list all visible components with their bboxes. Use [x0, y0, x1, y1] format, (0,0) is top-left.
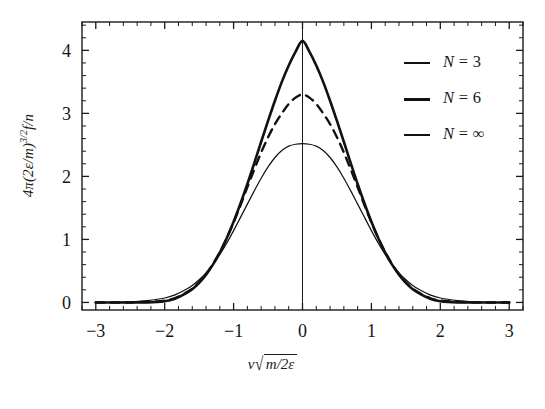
- legend-symbol: N: [443, 124, 454, 143]
- x-tick-label: −2: [155, 321, 174, 341]
- x-tick-label: 0: [298, 321, 307, 341]
- y-axis-label: 4π(2ε/m)3/2f/n: [6, 0, 50, 310]
- legend-line-sample: [404, 62, 430, 64]
- legend-label: N = 6: [443, 88, 481, 108]
- y-label-prefix: 4π(2ε/m): [21, 143, 37, 197]
- legend-key-3: [404, 128, 430, 140]
- sqrt-icon: √: [255, 353, 263, 375]
- legend-equals: =: [454, 124, 473, 143]
- x-label-variable: v: [248, 356, 255, 372]
- x-axis-label: v√m/2ε: [0, 352, 545, 374]
- y-label-suffix: f/n: [21, 113, 37, 129]
- legend-item[interactable]: N = 6: [404, 80, 516, 116]
- y-axis-label-text: 4π(2ε/m)3/2f/n: [19, 113, 38, 196]
- legend: N = 3N = 6N = ∞: [404, 44, 516, 152]
- legend-line-sample: [404, 134, 430, 136]
- legend-label: N = 3: [443, 52, 481, 72]
- legend-symbol: N: [443, 88, 454, 107]
- x-label-radicand: m/2ε: [264, 354, 297, 372]
- legend-equals: =: [454, 52, 473, 71]
- legend-value: 3: [473, 52, 481, 71]
- legend-item[interactable]: N = ∞: [404, 116, 516, 152]
- figure-container: −3−2−1012301234 4π(2ε/m)3/2f/n v√m/2ε N …: [0, 0, 545, 409]
- x-axis-label-text: v√m/2ε: [248, 352, 298, 374]
- legend-label: N = ∞: [443, 124, 485, 144]
- y-label-exponent: 3/2: [19, 129, 30, 142]
- y-tick-label: 3: [62, 104, 71, 124]
- x-tick-label: −3: [86, 321, 105, 341]
- x-tick-label: 3: [505, 321, 514, 341]
- legend-line-sample: [404, 98, 430, 101]
- x-tick-label: −1: [224, 321, 243, 341]
- x-tick-label: 1: [367, 321, 376, 341]
- legend-value: ∞: [473, 124, 485, 143]
- y-tick-label: 1: [62, 230, 71, 250]
- y-tick-label: 2: [62, 167, 71, 187]
- legend-key-2: [404, 92, 430, 104]
- y-tick-label: 0: [62, 293, 71, 313]
- legend-value: 6: [473, 88, 481, 107]
- y-tick-label: 4: [62, 41, 71, 61]
- legend-equals: =: [454, 88, 473, 107]
- x-tick-label: 2: [436, 321, 445, 341]
- legend-symbol: N: [443, 52, 454, 71]
- legend-item[interactable]: N = 3: [404, 44, 516, 80]
- legend-key-1: [404, 56, 430, 68]
